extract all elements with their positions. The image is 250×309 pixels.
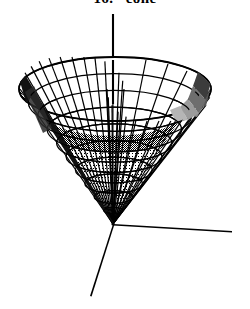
- figure-page: 16. cone: [0, 0, 250, 309]
- cone-plot-area: [0, 0, 250, 309]
- cone-apex: [111, 222, 114, 225]
- cone-3d-plot: [0, 0, 250, 309]
- axis-x: [113, 224, 232, 233]
- axis-y: [90, 224, 114, 296]
